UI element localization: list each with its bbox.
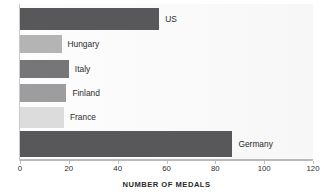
- bar-france[interactable]: [20, 107, 64, 128]
- x-tick-label: 40: [113, 164, 122, 173]
- bar-row[interactable]: US: [20, 8, 177, 30]
- x-tick-label: 60: [162, 164, 171, 173]
- bar-label: Germany: [238, 140, 272, 148]
- bar-germany[interactable]: [20, 131, 232, 157]
- bar-label: Hungary: [68, 40, 100, 48]
- bar-us[interactable]: [20, 8, 159, 30]
- bar-label: Italy: [75, 65, 90, 73]
- bar-row[interactable]: Italy: [20, 60, 90, 78]
- x-tick-label: 80: [211, 164, 220, 173]
- bar-label: US: [165, 15, 177, 23]
- plot-area: US Hungary Italy Finland France Germany: [20, 4, 313, 159]
- x-tick-label: 0: [18, 164, 22, 173]
- x-tick-label: 120: [306, 164, 319, 173]
- y-axis-line: [19, 4, 20, 161]
- x-tick-label: 100: [258, 164, 271, 173]
- bar-row[interactable]: Germany: [20, 131, 273, 157]
- bar-hungary[interactable]: [20, 35, 62, 53]
- bar-italy[interactable]: [20, 60, 69, 78]
- bar-finland[interactable]: [20, 84, 66, 102]
- bar-row[interactable]: Finland: [20, 84, 100, 102]
- x-axis-title: NUMBER OF MEDALS: [20, 180, 313, 189]
- bar-row[interactable]: Hungary: [20, 35, 99, 53]
- x-tick-label: 20: [64, 164, 73, 173]
- bar-row[interactable]: France: [20, 107, 96, 128]
- bar-chart: TOP SIX WINNING NATIONS US Hungary Italy…: [0, 0, 331, 196]
- bar-label: Finland: [72, 89, 99, 97]
- bar-label: France: [70, 113, 96, 121]
